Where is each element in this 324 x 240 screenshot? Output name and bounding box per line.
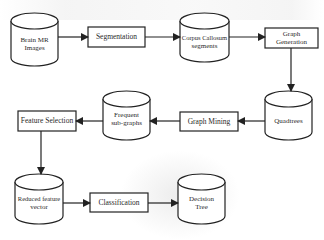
label-line: Decision — [189, 195, 214, 203]
label-line: Corpus Callosum — [182, 34, 227, 42]
label-line: Tree — [195, 203, 208, 211]
label-reduced-feature-vector: Reduced feature vector — [15, 192, 63, 214]
label-line: Brain MR — [20, 36, 48, 44]
label-line: sub-graphs — [111, 119, 142, 127]
label-graph-generation: Graph Generation — [265, 28, 318, 48]
label-brain-mr-images: Brain MR Images — [11, 32, 58, 56]
label-graph-mining: Graph Mining — [180, 112, 238, 131]
label-line: Generation — [276, 38, 307, 46]
label-quadtrees: Quadtrees — [265, 110, 312, 132]
label-line: Graph — [283, 30, 301, 38]
label-line: Reduced feature — [18, 195, 60, 203]
label-corpus-callosum: Corpus Callosum segments — [180, 31, 229, 53]
label-segmentation: Segmentation — [88, 27, 145, 47]
label-line: Frequent — [114, 111, 139, 119]
label-line: segments — [191, 42, 217, 50]
label-classification: Classification — [90, 193, 148, 212]
label-line: Images — [24, 44, 44, 52]
label-line: vector — [30, 203, 48, 211]
label-decision-tree: Decision Tree — [178, 192, 225, 214]
label-feature-selection: Feature Selection — [18, 111, 76, 131]
label-frequent-sub-graphs: Frequent sub-graphs — [103, 108, 150, 130]
